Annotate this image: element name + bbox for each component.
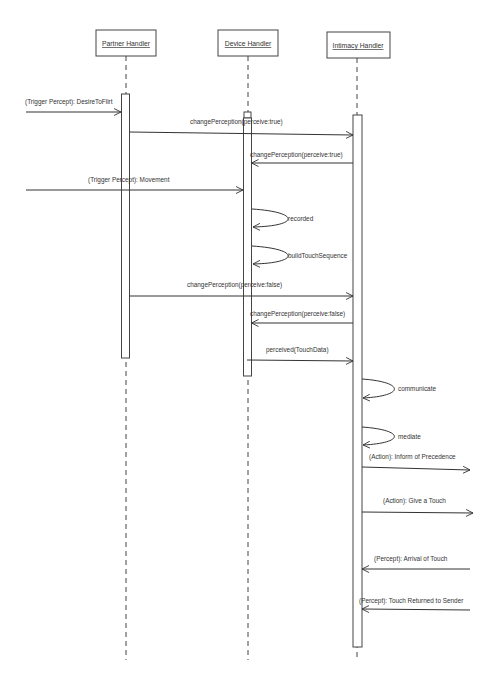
svg-text:(Trigger Percept): Movement: (Trigger Percept): Movement bbox=[88, 176, 170, 184]
svg-text:changePerception(perceive:true: changePerception(perceive:true) bbox=[250, 151, 343, 159]
svg-text:changePerception(perceive:fals: changePerception(perceive:false) bbox=[250, 310, 345, 318]
svg-text:(Percept): Arrival of Touch: (Percept): Arrival of Touch bbox=[374, 555, 448, 563]
message-change-perception-false-1: changePerception(perceive:false) bbox=[130, 281, 354, 296]
message-arrival-of-touch: (Percept): Arrival of Touch bbox=[362, 555, 470, 569]
activation-partner bbox=[122, 94, 130, 358]
svg-text:buildTouchSequence: buildTouchSequence bbox=[288, 252, 348, 260]
message-perceived-touch-data: perceived(TouchData) bbox=[247, 346, 353, 361]
message-inform-of-precedence: (Action): Inform of Precedence bbox=[362, 453, 470, 470]
self-message-recorded: recorded bbox=[252, 209, 314, 227]
svg-text:communicate: communicate bbox=[398, 385, 436, 392]
svg-text:(Action): Inform of Precedence: (Action): Inform of Precedence bbox=[369, 453, 456, 461]
svg-text:mediate: mediate bbox=[398, 433, 421, 440]
sequence-diagram: Partner Handler Device Handler Intimacy … bbox=[0, 0, 498, 673]
message-give-a-touch: (Action): Give a Touch bbox=[362, 497, 473, 513]
message-change-perception-true-1: changePerception(perceive:true) bbox=[130, 118, 354, 135]
svg-text:recorded: recorded bbox=[288, 215, 314, 222]
message-change-perception-false-2: changePerception(perceive:false) bbox=[250, 310, 353, 323]
message-change-perception-true-2: changePerception(perceive:true) bbox=[250, 151, 353, 163]
message-movement: (Trigger Percept): Movement bbox=[26, 176, 243, 190]
svg-text:changePerception(perceive:true: changePerception(perceive:true) bbox=[190, 118, 283, 126]
self-message-build-touch-sequence: buildTouchSequence bbox=[252, 246, 348, 264]
lifeline-label: Partner Handler bbox=[102, 40, 151, 47]
lifeline-label: Device Handler bbox=[225, 40, 272, 47]
svg-text:(Percept): Touch Returned to S: (Percept): Touch Returned to Sender bbox=[359, 597, 464, 605]
svg-text:(Action): Give a Touch: (Action): Give a Touch bbox=[383, 497, 446, 505]
svg-text:(Trigger Percept): DesireToFli: (Trigger Percept): DesireToFlirt bbox=[25, 98, 113, 106]
svg-text:changePerception(perceive:fals: changePerception(perceive:false) bbox=[187, 281, 282, 289]
self-message-communicate: communicate bbox=[362, 379, 436, 398]
svg-text:perceived(TouchData): perceived(TouchData) bbox=[266, 346, 329, 354]
message-touch-returned-to-sender: (Percept): Touch Returned to Sender bbox=[359, 597, 470, 610]
message-desire-to-flirt: (Trigger Percept): DesireToFlirt bbox=[25, 98, 121, 112]
activation-intimacy bbox=[353, 115, 362, 647]
self-message-mediate: mediate bbox=[362, 427, 421, 445]
lifeline-label: Intimacy Handler bbox=[333, 42, 385, 50]
